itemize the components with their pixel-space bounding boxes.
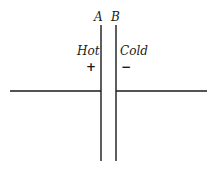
negative-sign: −: [121, 60, 131, 74]
thermocouple-junction-diagram: A B Hot Cold + −: [0, 0, 216, 171]
plate-b-label: B: [110, 10, 120, 24]
cold-side-label: Cold: [120, 44, 148, 58]
positive-sign: +: [86, 60, 96, 74]
plate-a-label: A: [93, 10, 103, 24]
hot-side-label: Hot: [76, 44, 100, 58]
